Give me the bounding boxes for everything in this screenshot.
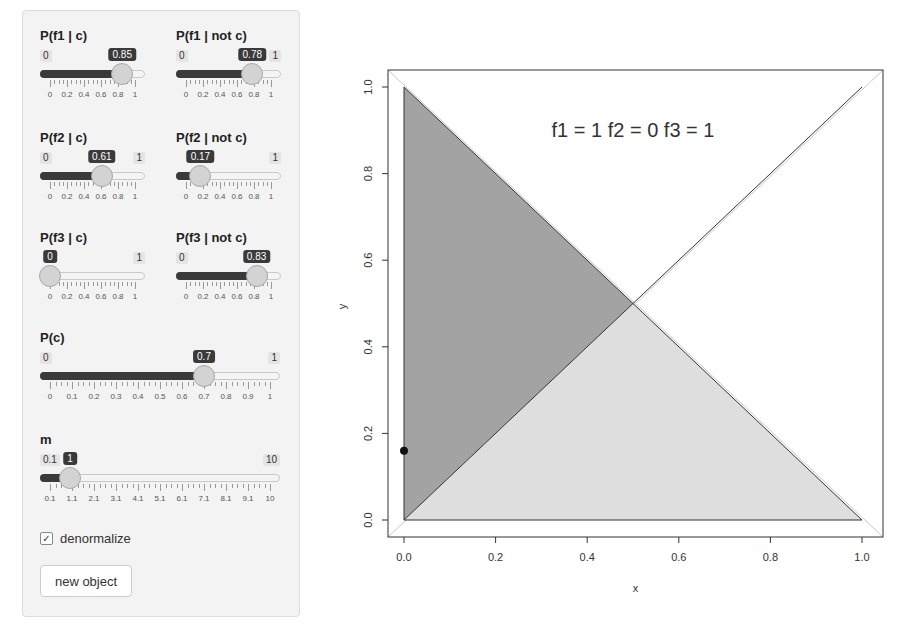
- y-tick-label: 1.0: [362, 79, 374, 94]
- data-point: [400, 447, 408, 455]
- y-tick-label: 0.6: [362, 253, 374, 268]
- x-axis-label: x: [633, 582, 639, 594]
- x-tick-label: 1.0: [854, 551, 869, 563]
- plot-annotation: f1 = 1 f2 = 0 f3 = 1: [552, 119, 715, 141]
- y-tick-label: 0.0: [362, 512, 374, 527]
- x-tick-label: 0.8: [763, 551, 778, 563]
- x-tick-label: 0.0: [396, 551, 411, 563]
- y-tick-label: 0.2: [362, 426, 374, 441]
- x-tick-label: 0.4: [580, 551, 595, 563]
- x-tick-label: 0.6: [671, 551, 686, 563]
- y-tick-label: 0.8: [362, 166, 374, 181]
- y-axis-label: y: [336, 303, 348, 309]
- plot-area: 0.00.20.40.60.81.00.00.20.40.60.81.0xyf1…: [0, 0, 908, 640]
- x-tick-label: 0.2: [488, 551, 503, 563]
- y-tick-label: 0.4: [362, 339, 374, 354]
